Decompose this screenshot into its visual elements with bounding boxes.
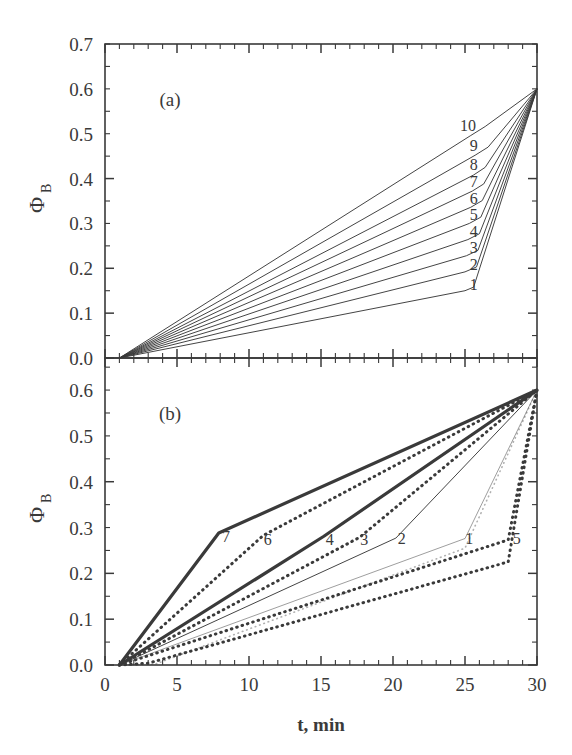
panel-a: 0.00.10.20.30.40.50.60.7 12345678910 (a)… xyxy=(24,34,537,369)
curve-label: 9 xyxy=(470,137,478,154)
x-tick-label: 20 xyxy=(384,674,403,695)
panel-b-y-axis-title: Φ B xyxy=(24,494,54,523)
y-tick-label: 0.7 xyxy=(69,34,93,55)
x-tick-label: 0 xyxy=(100,674,110,695)
curve-label: 4 xyxy=(326,531,334,548)
curve-label: 5 xyxy=(513,530,521,547)
y-tick-label: 0.3 xyxy=(69,213,93,234)
panel-b-tag: (b) xyxy=(159,403,181,425)
curve-label: 10 xyxy=(460,117,476,134)
y-tick-label: 0.6 xyxy=(69,79,93,100)
panel-b-y-axis-phi: Φ xyxy=(24,507,49,523)
x-tick-label: 15 xyxy=(312,674,331,695)
y-tick-label: 0.4 xyxy=(69,472,93,493)
data-curve xyxy=(119,390,537,665)
panel-b-x-tick-labels: 051015202530 xyxy=(100,674,546,695)
x-tick-label: 10 xyxy=(240,674,259,695)
panel-b-curve-labels: 7643215 xyxy=(222,528,521,548)
panel-a-tag: (a) xyxy=(159,89,180,111)
curve-label: 7 xyxy=(470,173,478,190)
figure-container: 0.00.10.20.30.40.50.60.7 12345678910 (a)… xyxy=(0,0,572,755)
y-tick-label: 0.1 xyxy=(69,609,93,630)
panel-a-y-axis-sub: B xyxy=(39,184,54,193)
curve-label: 7 xyxy=(222,528,230,545)
x-tick-label: 25 xyxy=(456,674,475,695)
panel-b-curves xyxy=(119,390,537,665)
curve-label: 2 xyxy=(470,256,478,273)
panel-a-curve-labels: 12345678910 xyxy=(460,117,478,293)
panel-b: 0.00.10.20.30.40.50.6 051015202530 76432… xyxy=(24,358,547,735)
y-tick-label: 0.2 xyxy=(69,563,93,584)
y-tick-label: 0.2 xyxy=(69,258,93,279)
y-tick-label: 0.1 xyxy=(69,303,93,324)
y-tick-label: 0.0 xyxy=(69,348,93,369)
y-tick-label: 0.4 xyxy=(69,169,93,190)
curve-label: 1 xyxy=(470,276,478,293)
panel-a-y-tick-labels: 0.00.10.20.30.40.50.60.7 xyxy=(69,34,93,369)
panel-b-y-tick-labels: 0.00.10.20.30.40.50.6 xyxy=(69,380,93,676)
curve-label: 6 xyxy=(264,531,272,548)
panel-b-y-axis-sub: B xyxy=(39,494,54,503)
y-tick-label: 0.3 xyxy=(69,518,93,539)
curve-label: 3 xyxy=(470,239,478,256)
y-tick-label: 0.5 xyxy=(69,426,93,447)
x-axis-title: t, min xyxy=(297,714,345,735)
curve-label: 3 xyxy=(360,531,368,548)
x-tick-label: 5 xyxy=(172,674,182,695)
curve-label: 2 xyxy=(398,530,406,547)
curve-label: 5 xyxy=(470,206,478,223)
panel-a-y-axis-phi: Φ xyxy=(24,197,49,213)
y-tick-label: 0.6 xyxy=(69,380,93,401)
chart-svg: 0.00.10.20.30.40.50.60.7 12345678910 (a)… xyxy=(0,0,572,755)
curve-label: 8 xyxy=(470,156,478,173)
panel-a-y-axis-title: Φ B xyxy=(24,184,54,213)
y-tick-label: 0.5 xyxy=(69,124,93,145)
curve-label: 6 xyxy=(470,190,478,207)
x-tick-label: 30 xyxy=(528,674,547,695)
curve-label: 4 xyxy=(470,223,478,240)
y-tick-label: 0.0 xyxy=(69,655,93,676)
curve-label: 1 xyxy=(465,530,473,547)
